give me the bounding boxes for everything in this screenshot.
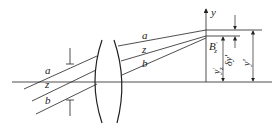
point-b-label: B′z: [209, 40, 218, 55]
lens-right-surface: [114, 40, 122, 123]
delta-y-label: δy′: [223, 54, 234, 66]
ray-a-in: [24, 56, 97, 89]
ray-z-right-label: z: [141, 43, 147, 55]
ray-z-in: [32, 70, 96, 101]
ray-a-right-label: a: [142, 29, 148, 41]
ray-a-label: a: [45, 64, 51, 76]
lens-left-surface: [95, 40, 102, 123]
optical-diagram: a z b a z b y B′z y′z δy′ y′: [0, 0, 277, 136]
ray-b-right-label: b: [142, 57, 148, 69]
ray-z-label: z: [44, 78, 50, 90]
ray-b-label: b: [45, 94, 51, 106]
y-axis-label: y: [210, 6, 216, 18]
y-prime-label: y′: [241, 59, 252, 67]
ray-b-out: [122, 38, 206, 75]
ray-z-out: [121, 36, 206, 61]
